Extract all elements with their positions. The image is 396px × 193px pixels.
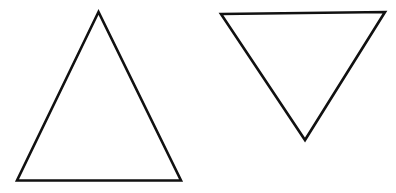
diagram-canvas <box>0 0 396 193</box>
inverted-triangle-icon <box>221 12 385 140</box>
upright-triangle-icon <box>17 12 181 181</box>
triangles-figure <box>0 0 396 193</box>
